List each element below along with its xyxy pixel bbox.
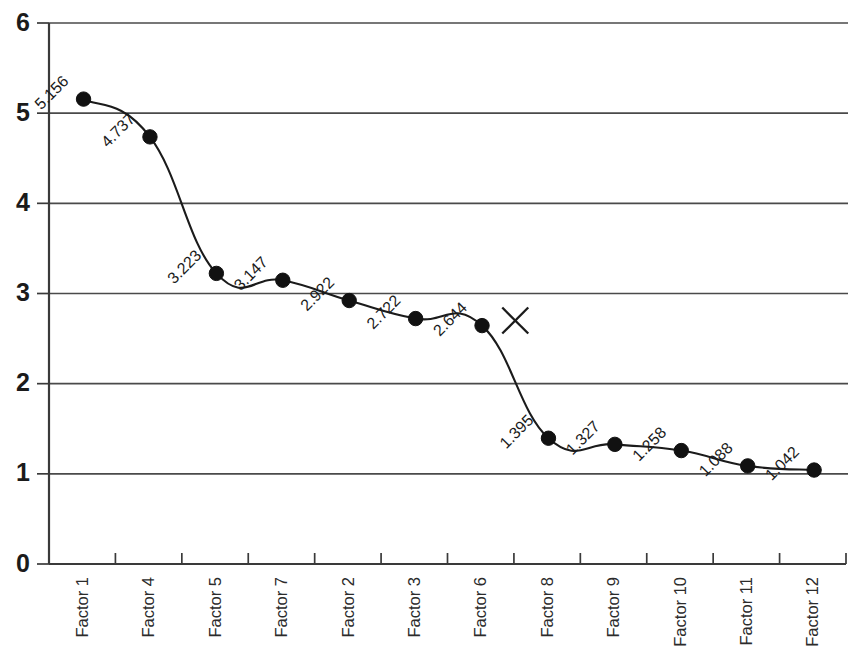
scree-plot-chart: 0123456 5.1564.7373.2233.1472.9222.7222.… xyxy=(0,0,865,661)
data-label-4: 3.147 xyxy=(231,253,271,293)
data-label-1: 5.156 xyxy=(31,72,71,112)
data-point-12[interactable] xyxy=(807,463,821,477)
x-axis-label-5: Factor 2 xyxy=(339,577,357,638)
y-axis-label-4: 4 xyxy=(16,188,30,216)
x-cross-marker xyxy=(502,308,528,334)
chart-canvas: 0123456 5.1564.7373.2233.1472.9222.7222.… xyxy=(0,0,865,661)
y-axis-label-1: 1 xyxy=(16,458,30,486)
x-axis-label-12: Factor 12 xyxy=(803,577,821,647)
y-axis-label-3: 3 xyxy=(16,278,30,306)
x-axis-label-3: Factor 5 xyxy=(206,577,224,638)
chart-annotations xyxy=(502,308,528,334)
x-axis-label-4: Factor 7 xyxy=(272,577,290,638)
gridlines xyxy=(49,23,848,474)
data-point-1[interactable] xyxy=(76,92,90,106)
data-label-3: 3.223 xyxy=(164,246,204,286)
data-point-8[interactable] xyxy=(541,431,555,445)
y-axis-label-5: 5 xyxy=(16,98,30,126)
y-axis-label-0: 0 xyxy=(16,549,30,577)
x-axis-label-10: Factor 10 xyxy=(671,577,689,647)
data-label-8: 1.395 xyxy=(496,411,536,451)
data-point-markers xyxy=(76,92,821,477)
x-axis-label-8: Factor 8 xyxy=(538,577,556,638)
data-label-9: 1.327 xyxy=(563,417,603,457)
x-axis-label-6: Factor 3 xyxy=(405,577,423,638)
x-axis-label-1: Factor 1 xyxy=(73,577,91,638)
x-axis-label-2: Factor 4 xyxy=(139,577,157,638)
data-label-10: 1.258 xyxy=(629,424,669,464)
data-point-7[interactable] xyxy=(475,318,489,332)
data-point-4[interactable] xyxy=(276,273,290,287)
data-label-2: 4.737 xyxy=(98,110,138,150)
data-point-10[interactable] xyxy=(674,443,688,457)
data-point-11[interactable] xyxy=(741,459,755,473)
x-axis-label-9: Factor 9 xyxy=(604,577,622,638)
data-label-6: 2.722 xyxy=(363,292,403,332)
x-axis-label-11: Factor 11 xyxy=(737,577,755,645)
data-point-3[interactable] xyxy=(209,266,223,280)
data-point-2[interactable] xyxy=(143,130,157,144)
data-point-5[interactable] xyxy=(342,293,356,307)
data-point-6[interactable] xyxy=(408,311,422,325)
y-axis-label-6: 6 xyxy=(16,8,30,36)
x-axis-tick-labels: Factor 1Factor 4Factor 5Factor 7Factor 2… xyxy=(73,577,822,647)
eigenvalue-series-line xyxy=(84,99,815,470)
x-axis-label-7: Factor 6 xyxy=(471,577,489,638)
data-label-12: 1.042 xyxy=(762,443,802,483)
data-point-9[interactable] xyxy=(608,437,622,451)
y-axis-label-2: 2 xyxy=(16,368,30,396)
y-axis-tick-labels: 0123456 xyxy=(16,8,30,577)
